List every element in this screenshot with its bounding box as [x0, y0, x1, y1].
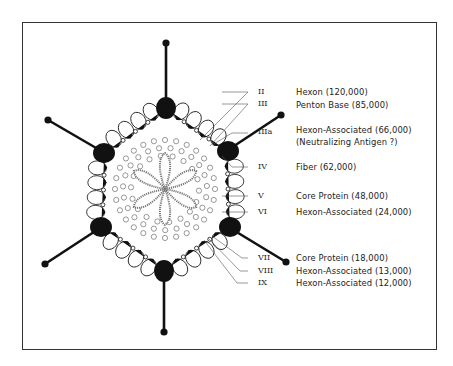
virion-diagram	[0, 0, 453, 366]
core	[112, 137, 217, 240]
label-hexon-assoc-13k: Hexon-Associated (13,000)	[296, 266, 412, 276]
label-hexon: Hexon (120,000)	[296, 87, 368, 97]
label-hexon-assoc-24k: Hexon-Associated (24,000)	[296, 207, 412, 217]
numeral-ix: IX	[258, 278, 267, 287]
numeral-viii: VIII	[258, 266, 273, 275]
label-neutralizing: (Neutralizing Antigen ?)	[296, 137, 398, 147]
numeral-vii: VII	[258, 253, 270, 262]
numeral-ii: II	[258, 87, 264, 96]
label-fiber: Fiber (62,000)	[296, 162, 356, 172]
label-penton-base: Penton Base (85,000)	[296, 100, 389, 110]
label-core-48k: Core Protein (48,000)	[296, 191, 388, 201]
numeral-vi: VI	[258, 207, 267, 216]
label-core-18k: Core Protein (18,000)	[296, 253, 388, 263]
numeral-iiia: IIIa	[258, 127, 272, 136]
numeral-iv: IV	[258, 162, 267, 171]
numeral-v: V	[258, 191, 264, 200]
label-hexon-assoc-66k: Hexon-Associated (66,000)	[296, 125, 412, 135]
label-hexon-assoc-12k: Hexon-Associated (12,000)	[296, 278, 412, 288]
numeral-iii: III	[258, 99, 267, 108]
